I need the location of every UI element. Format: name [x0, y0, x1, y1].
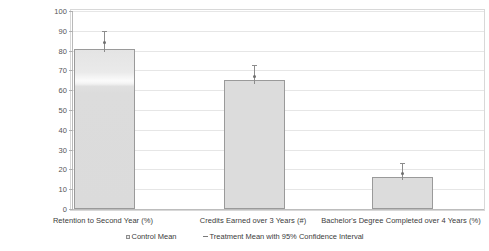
ytick-label-0: 0: [63, 205, 67, 214]
legend-label-treatment-mean: Treatment Mean with 95% Confidence Inter…: [210, 232, 364, 241]
ytick-mark-80: [69, 51, 73, 52]
treatment-mean-marker-credits: [253, 75, 256, 78]
category-label-retention: Retention to Second Year (%): [53, 216, 153, 225]
ytick-label-20: 20: [58, 165, 67, 174]
ytick-mark-60: [69, 90, 73, 91]
ytick-mark-30: [69, 150, 73, 151]
legend-item-control-mean[interactable]: Control Mean: [126, 232, 177, 241]
ytick-mark-20: [69, 169, 73, 170]
error-bar-cap-top-credits: [252, 65, 257, 66]
category-label-credits: Credits Earned over 3 Years (#): [200, 216, 307, 225]
bar-credits[interactable]: [224, 80, 285, 209]
error-bar-cap-top-retention: [102, 31, 107, 32]
gridline-90: [73, 31, 484, 32]
plot-area: 100 90 80 70 60 50 40 30 20 10 0: [72, 11, 483, 209]
bar-retention[interactable]: [74, 49, 135, 209]
bar-chart: 100 90 80 70 60 50 40 30 20 10 0: [0, 0, 489, 251]
ytick-mark-0: [69, 209, 73, 210]
ytick-mark-10: [69, 189, 73, 190]
bar-bachelors[interactable]: [372, 177, 433, 209]
treatment-mean-marker-retention: [103, 41, 106, 44]
legend-dash-icon: [203, 236, 208, 237]
axis-baseline: [73, 209, 484, 210]
ytick-mark-90: [69, 31, 73, 32]
legend-label-control-mean: Control Mean: [132, 232, 177, 241]
ytick-mark-70: [69, 70, 73, 71]
gridline-100: [73, 11, 484, 12]
ytick-label-10: 10: [58, 185, 67, 194]
error-bar-cap-top-bachelors: [400, 163, 405, 164]
ytick-label-50: 50: [58, 106, 67, 115]
category-label-bachelors: Bachelor's Degree Completed over 4 Years…: [321, 216, 481, 225]
ytick-label-80: 80: [58, 46, 67, 55]
ytick-label-60: 60: [58, 86, 67, 95]
legend-square-icon: [126, 235, 130, 239]
ytick-label-100: 100: [54, 7, 67, 16]
ytick-mark-100: [69, 11, 73, 12]
chart-legend: Control Mean Treatment Mean with 95% Con…: [0, 232, 489, 241]
ytick-mark-40: [69, 130, 73, 131]
treatment-mean-marker-bachelors: [401, 172, 404, 175]
ytick-label-90: 90: [58, 26, 67, 35]
ytick-label-30: 30: [58, 145, 67, 154]
legend-item-treatment-mean[interactable]: Treatment Mean with 95% Confidence Inter…: [203, 232, 364, 241]
ytick-label-40: 40: [58, 125, 67, 134]
ytick-label-70: 70: [58, 66, 67, 75]
ytick-mark-50: [69, 110, 73, 111]
